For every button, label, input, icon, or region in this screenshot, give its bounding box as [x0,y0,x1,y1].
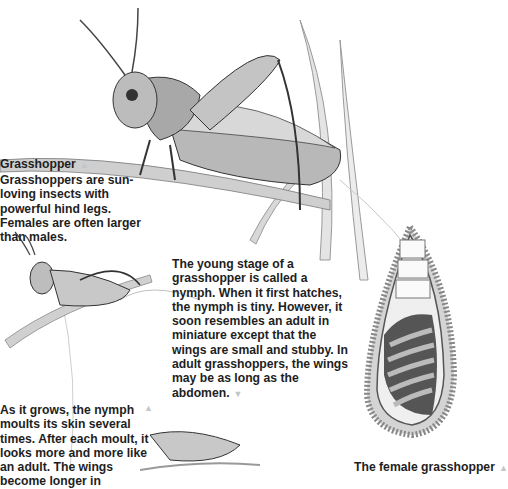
caption-nymph-text: The young stage of a grasshopper is call… [172,257,348,400]
triangle-up-icon: ▲ [499,461,508,475]
caption-female-text: The female grasshopper [354,460,495,474]
heading-block: Grasshopper▲ [0,157,89,172]
triangle-up-icon: ▲ [80,158,89,172]
caption-intro: Grasshoppers are sun-loving insects with… [0,173,150,244]
caption-female: The female grasshopper▲ [354,460,464,475]
triangle-up-icon: ▲ [144,403,153,413]
triangle-down-icon: ▼ [234,387,243,401]
nymph-grasshopper-illustration [0,230,160,350]
caption-moult-text: As it grows, the nymph moults its skin s… [0,403,149,488]
caption-nymph: The young stage of a grasshopper is call… [172,257,352,401]
heading-title: Grasshopper [0,157,76,171]
egg-pod-illustration [362,225,462,445]
caption-moult: As it grows, the nymph moults its skin s… [0,403,160,489]
